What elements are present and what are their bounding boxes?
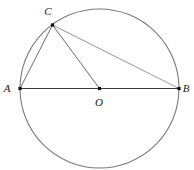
point-marker-o	[98, 87, 101, 90]
segment-c-to-o	[53, 25, 100, 89]
vertex-label-a: A	[4, 83, 11, 94]
vertex-label-o: O	[95, 97, 103, 108]
geometry-canvas	[0, 0, 194, 170]
point-marker-c	[51, 23, 54, 26]
vertex-label-c: C	[44, 6, 51, 17]
point-marker-b	[177, 87, 180, 90]
point-marker-a	[18, 87, 21, 90]
geometry-figure: A B C O	[0, 0, 194, 170]
vertex-label-b: B	[183, 83, 190, 94]
segment-c-to-b	[53, 25, 180, 89]
segment-c-to-a	[20, 25, 53, 89]
